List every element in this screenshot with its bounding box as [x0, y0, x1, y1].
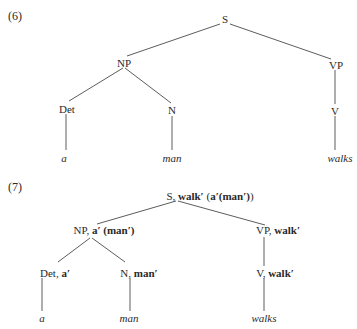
node-s: S, walk′ (a′(man′)) [166, 190, 254, 203]
example-6-tree: (6) S NP VP Det N V a man walks [8, 9, 353, 164]
leaf-man: man [120, 312, 139, 324]
leaf-a: a [61, 152, 67, 164]
node-det: Det [59, 103, 75, 115]
node-v: V, walk′ [256, 267, 294, 279]
leaf-walks: walks [327, 152, 352, 164]
edge-np-det [58, 238, 90, 262]
node-np: NP, a′ (man′) [74, 224, 135, 237]
example-number: (7) [8, 180, 22, 194]
leaf-man: man [163, 152, 182, 164]
edge-s-np [127, 24, 220, 56]
example-number: (6) [8, 9, 22, 23]
syntax-trees: (6) S NP VP Det N V a man walks (7) [0, 0, 357, 329]
node-vp: VP, walk′ [256, 224, 300, 236]
edge-np-det [69, 68, 123, 101]
node-n: N [168, 104, 176, 116]
edge-s-vp [178, 201, 265, 225]
edge-s-vp [230, 24, 331, 59]
edge-np-n [92, 238, 125, 262]
node-vp: VP [329, 59, 343, 71]
node-v: V [331, 105, 339, 117]
example-7-tree: (7) S, walk′ (a′(man′)) NP, a′ (man′) VP… [8, 180, 300, 324]
node-s: S [222, 13, 228, 25]
node-n: N, man′ [120, 267, 157, 279]
leaf-a: a [39, 312, 45, 324]
node-np: NP [117, 57, 131, 69]
leaf-walks: walks [251, 312, 276, 324]
node-det: Det, a′ [40, 267, 70, 279]
edge-np-n [125, 68, 171, 103]
edge-s-np [97, 201, 176, 224]
